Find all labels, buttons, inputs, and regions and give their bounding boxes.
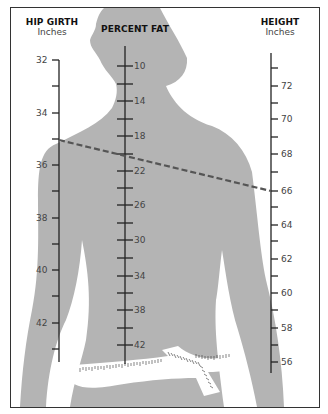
height-label: 60	[281, 288, 292, 298]
hip-label: 40	[36, 265, 47, 275]
height-label: 62	[281, 254, 292, 264]
height-label: 66	[281, 186, 292, 196]
hip-girth-heading: HIP GIRTH Inches	[20, 17, 84, 37]
hip-label: 34	[36, 108, 47, 118]
percent-fat-title: PERCENT FAT	[95, 24, 175, 34]
fat-label: 38	[134, 305, 145, 315]
fat-label: 22	[134, 166, 145, 176]
height-label: 56	[281, 357, 292, 367]
height-heading: HEIGHT Inches	[250, 17, 310, 37]
fat-label: 10	[134, 61, 145, 71]
fat-label: 26	[134, 200, 145, 210]
height-label: 64	[281, 220, 292, 230]
fat-label: 18	[134, 131, 145, 141]
nomogram-figure: HIP GIRTH Inches PERCENT FAT HEIGHT Inch…	[0, 0, 328, 414]
height-unit: Inches	[250, 27, 310, 37]
percent-fat-heading: PERCENT FAT	[95, 24, 175, 34]
fat-label: 34	[134, 271, 145, 281]
hip-girth-title: HIP GIRTH	[20, 17, 84, 27]
height-label: 70	[281, 114, 292, 124]
fat-label: 42	[134, 340, 145, 350]
hip-label: 32	[36, 55, 47, 65]
nomogram-graphic	[0, 0, 328, 414]
hip-girth-unit: Inches	[20, 27, 84, 37]
height-title: HEIGHT	[250, 17, 310, 27]
hip-label: 36	[36, 160, 47, 170]
fat-label: 30	[134, 235, 145, 245]
height-label: 72	[281, 81, 292, 91]
height-label: 58	[281, 323, 292, 333]
fat-label: 14	[134, 96, 145, 106]
height-label: 68	[281, 149, 292, 159]
hip-label: 38	[36, 213, 47, 223]
hip-label: 42	[36, 318, 47, 328]
